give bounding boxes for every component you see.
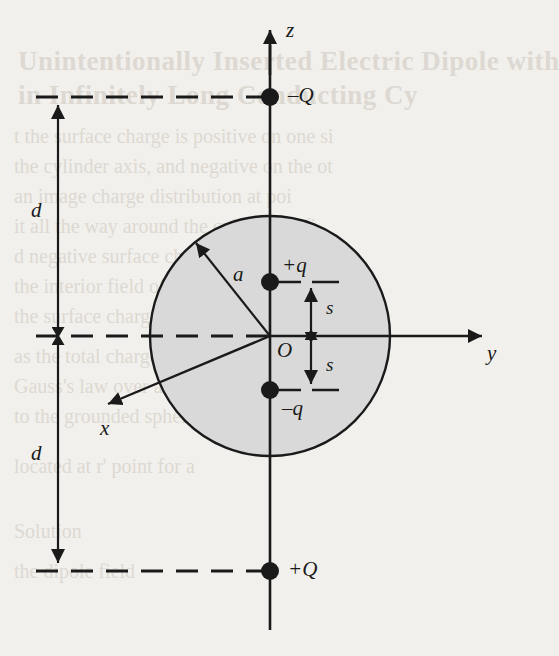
- distance-d-upper-label: d: [31, 200, 42, 221]
- dipole-half-separation-upper-label: s: [326, 298, 333, 317]
- x-axis-label: x: [100, 418, 109, 439]
- sphere-radius-label: a: [233, 264, 244, 285]
- z-axis-label: z: [286, 20, 294, 41]
- distance-d-lower-label: d: [31, 443, 42, 464]
- lower-external-charge-dot: [261, 562, 279, 580]
- dipole-positive-charge-label: +q: [282, 255, 307, 276]
- dipole-negative-charge-label: –q: [282, 398, 303, 419]
- dipole-negative-charge-dot: [261, 381, 279, 399]
- upper-external-charge-label: –Q: [288, 85, 314, 106]
- y-axis-label: y: [487, 343, 496, 364]
- upper-external-charge-dot: [261, 88, 279, 106]
- origin-label: O: [277, 340, 292, 361]
- lower-external-charge-label: +Q: [288, 559, 317, 580]
- dipole-positive-charge-dot: [261, 273, 279, 291]
- dipole-half-separation-lower-label: s: [326, 355, 333, 374]
